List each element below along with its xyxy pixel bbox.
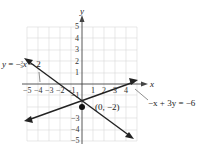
svg-text:3: 3: [113, 86, 117, 95]
svg-text:1: 1: [91, 86, 95, 95]
svg-text:4: 4: [124, 86, 128, 95]
point-label: (0, −2): [95, 102, 120, 112]
svg-text:3: 3: [75, 45, 79, 54]
svg-text:−5: −5: [71, 136, 80, 145]
svg-text:4: 4: [75, 34, 79, 43]
graph: x y −5−4 −3−2 −11 23 4 54 32 1−1 −3−4 −5…: [0, 0, 201, 148]
eq1-leader: [39, 72, 40, 82]
y-axis-label: y: [79, 6, 84, 16]
y-tick-labels: 54 32 1−1 −3−4 −5: [71, 22, 80, 145]
eq2-label: −x + 3y = −6: [148, 98, 196, 108]
svg-text:−5: −5: [23, 86, 32, 95]
svg-text:5: 5: [75, 22, 79, 31]
svg-text:−3: −3: [45, 86, 54, 95]
line2-arrow-start-icon: [24, 116, 33, 123]
y-axis-arrow-icon: [80, 15, 85, 22]
svg-text:2: 2: [75, 57, 79, 66]
x-axis-label: x: [149, 79, 154, 89]
line-eq2: [28, 82, 134, 120]
svg-text:1: 1: [75, 68, 79, 77]
intersection-point: [79, 104, 85, 110]
axes: [22, 18, 145, 144]
svg-text:−4: −4: [34, 86, 43, 95]
svg-text:−4: −4: [71, 125, 80, 134]
svg-text:−3: −3: [71, 114, 80, 123]
x-axis-arrow-icon: [141, 82, 148, 87]
eq1-label: y = −23x − 2: [1, 59, 41, 69]
